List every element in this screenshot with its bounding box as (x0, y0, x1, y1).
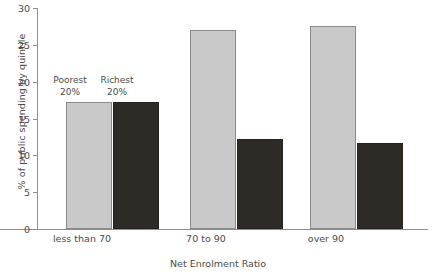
x-tick-label-less-than-70: less than 70 (29, 233, 135, 244)
y-tick-mark-5 (33, 192, 37, 193)
series-label-richest-line2: 20% (89, 86, 145, 98)
y-tick-label-0: 0 (4, 224, 30, 235)
y-tick-mark-25 (33, 45, 37, 46)
bar-poorest-less-than-70 (66, 102, 112, 229)
y-tick-mark-0 (33, 229, 37, 230)
series-label-poorest-line1: Poorest (53, 75, 86, 85)
y-tick-mark-20 (33, 82, 37, 83)
bar-richest-over-90 (357, 143, 403, 229)
y-axis-title: % of public spending by quintile (16, 7, 27, 217)
y-tick-mark-10 (33, 155, 37, 156)
y-tick-label-30: 30 (4, 3, 30, 14)
bar-richest-70-to-90 (237, 139, 283, 229)
x-tick-label-70-to-90: 70 to 90 (153, 233, 259, 244)
y-tick-mark-30 (33, 8, 37, 9)
y-tick-label-5: 5 (4, 187, 30, 198)
y-axis-line (37, 8, 38, 229)
y-tick-mark-15 (33, 119, 37, 120)
y-tick-label-25: 25 (4, 39, 30, 50)
plot-area: 0 5 10 15 20 25 30 (37, 8, 428, 229)
series-label-richest: Richest 20% (89, 74, 145, 98)
x-axis-line (0, 229, 428, 230)
bar-chart: % of public spending by quintile 0 5 10 … (0, 0, 436, 280)
bar-poorest-70-to-90 (190, 30, 236, 229)
x-axis-title: Net Enrolment Ratio (0, 258, 436, 269)
bar-poorest-over-90 (310, 26, 356, 229)
y-tick-label-10: 10 (4, 150, 30, 161)
y-tick-label-15: 15 (4, 113, 30, 124)
x-tick-label-over-90: over 90 (273, 233, 379, 244)
y-tick-label-20: 20 (4, 76, 30, 87)
series-label-richest-line1: Richest (100, 75, 133, 85)
bar-richest-less-than-70 (113, 102, 159, 229)
